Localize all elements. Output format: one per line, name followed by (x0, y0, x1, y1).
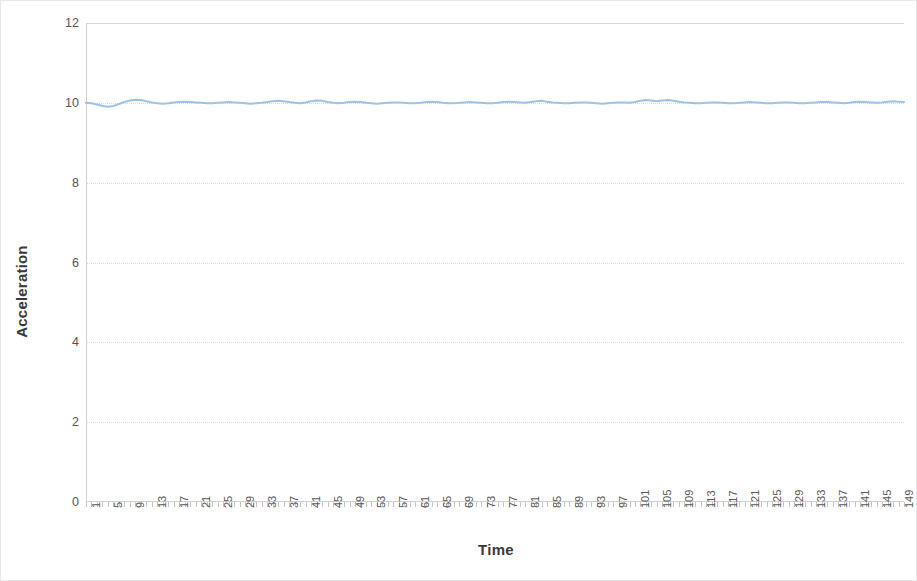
x-axis-tick-label: 17 (178, 496, 190, 508)
x-axis-tick-mark (739, 502, 740, 507)
x-axis-tick-mark (388, 502, 389, 507)
line-chart: Acceleration 024681012 15913172125293337… (0, 0, 917, 581)
x-axis-tick-mark (152, 502, 153, 507)
x-axis-tick-label: 61 (419, 496, 431, 508)
x-axis-tick-label: 29 (244, 496, 256, 508)
x-axis-tick-label: 121 (749, 490, 761, 508)
x-axis-tick-mark (240, 502, 241, 507)
y-axis-tick-label: 2 (41, 415, 79, 429)
x-axis-tick-mark (525, 502, 526, 507)
x-axis-tick-mark (608, 502, 609, 507)
x-axis-tick-mark (190, 502, 191, 507)
x-axis-tick-mark (783, 502, 784, 507)
x-axis-tick-mark (284, 502, 285, 507)
x-axis-tick-mark (630, 502, 631, 507)
x-axis-tick-mark (328, 502, 329, 507)
x-axis-tick-label: 137 (837, 490, 849, 508)
x-axis-tick-label: 89 (573, 496, 585, 508)
x-axis-tick-mark (811, 502, 812, 507)
x-axis-tick-label: 117 (727, 490, 739, 508)
x-axis-tick-label: 93 (595, 496, 607, 508)
x-axis-tick-mark (196, 502, 197, 507)
x-axis-tick-mark (350, 502, 351, 507)
plot-area (86, 23, 904, 502)
x-axis-tick-mark (130, 502, 131, 507)
x-axis-tick-mark (454, 502, 455, 507)
x-axis-tick-mark (745, 502, 746, 507)
x-axis-tick-label: 21 (200, 496, 212, 508)
x-axis-tick-label: 25 (222, 496, 234, 508)
x-axis-tick-mark (827, 502, 828, 507)
x-axis-tick-mark (871, 502, 872, 507)
x-axis-tick-label: 45 (332, 496, 344, 508)
x-axis-tick-mark (306, 502, 307, 507)
x-axis-tick-mark (168, 502, 169, 507)
x-axis-tick-label: 141 (859, 490, 871, 508)
x-axis-tick-label: 73 (485, 496, 497, 508)
x-axis-tick-mark (893, 502, 894, 507)
x-axis-tick-label: 101 (639, 490, 651, 508)
y-axis-tick-label: 0 (41, 495, 79, 509)
y-axis-tick-label: 12 (41, 16, 79, 30)
x-axis-tick-label: 133 (815, 490, 827, 508)
x-axis-tick-mark (520, 502, 521, 507)
x-axis-tick-mark (805, 502, 806, 507)
x-axis-tick-mark (300, 502, 301, 507)
x-axis-tick-mark (278, 502, 279, 507)
x-axis-tick-label: 9 (134, 502, 146, 508)
x-axis-tick-mark (108, 502, 109, 507)
y-axis-tick-label: 8 (41, 176, 79, 190)
x-axis-tick-mark (613, 502, 614, 507)
x-axis-tick-mark (849, 502, 850, 507)
x-axis-tick-label: 69 (463, 496, 475, 508)
x-axis-tick-mark (651, 502, 652, 507)
x-axis-tick-mark (701, 502, 702, 507)
x-axis-tick-mark (503, 502, 504, 507)
x-axis-tick-labels: 1591317212529333741454953576165697377818… (86, 508, 904, 542)
x-axis-tick-mark (86, 502, 87, 507)
x-axis-tick-mark (833, 502, 834, 507)
x-axis-tick-label: 5 (112, 502, 124, 508)
x-axis-tick-mark (212, 502, 213, 507)
x-axis-tick-mark (717, 502, 718, 507)
x-axis-tick-mark (855, 502, 856, 507)
x-axis-tick-label: 1 (90, 502, 102, 508)
x-axis-tick-mark (415, 502, 416, 507)
x-axis-tick-mark (657, 502, 658, 507)
x-axis-tick-mark (322, 502, 323, 507)
x-axis-tick-label: 109 (683, 490, 695, 508)
x-axis-tick-mark (102, 502, 103, 507)
y-axis-title: Acceleration (1, 1, 41, 581)
x-axis-tick-label: 81 (529, 496, 541, 508)
x-axis-tick-mark (591, 502, 592, 507)
x-axis-tick-label: 57 (397, 496, 409, 508)
x-axis-tick-label: 129 (793, 490, 805, 508)
x-axis-tick-label: 145 (881, 490, 893, 508)
x-axis-tick-mark (174, 502, 175, 507)
x-axis-tick-mark (695, 502, 696, 507)
x-axis-tick-mark (437, 502, 438, 507)
y-axis-tick-label: 4 (41, 335, 79, 349)
x-axis-tick-mark (393, 502, 394, 507)
x-axis-tick-mark (234, 502, 235, 507)
x-axis-tick-mark (146, 502, 147, 507)
x-axis-tick-mark (481, 502, 482, 507)
x-axis-tick-mark (767, 502, 768, 507)
x-axis-tick-label: 13 (156, 496, 168, 508)
x-axis-tick-label: 41 (310, 496, 322, 508)
x-axis-tick-mark (899, 502, 900, 507)
y-axis-tick-labels: 024681012 (41, 1, 79, 581)
x-axis-tick-mark (366, 502, 367, 507)
x-axis-title: Time (86, 541, 906, 558)
x-axis-tick-label: 125 (771, 490, 783, 508)
x-axis-tick-mark (679, 502, 680, 507)
x-axis-tick-label: 105 (661, 490, 673, 508)
x-axis-tick-label: 33 (266, 496, 278, 508)
x-axis-tick-label: 85 (551, 496, 563, 508)
x-axis-tick-label: 113 (705, 490, 717, 508)
x-axis-tick-mark (124, 502, 125, 507)
x-axis-tick-mark (586, 502, 587, 507)
x-axis-tick-mark (761, 502, 762, 507)
x-axis-tick-label: 49 (354, 496, 366, 508)
x-axis-tick-mark (564, 502, 565, 507)
